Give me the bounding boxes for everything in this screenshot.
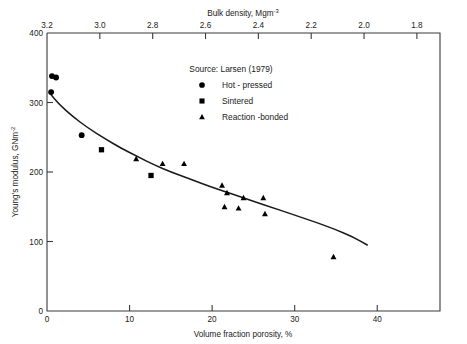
top-tick-label: 2.8 [147,21,159,30]
data-point-triangle [331,254,337,259]
top-tick-label: 1.8 [411,21,423,30]
y-axis-exponent: -2 [10,127,16,132]
y-axis-title: Young's modulus, GNm-2 [10,127,20,218]
top-axis-title: Bulk density, Mgm-3 [207,8,278,18]
y-tick-label: 400 [29,29,43,38]
y-axis-title-text: Young's modulus, GNm [11,132,20,218]
y-tick-label: 200 [29,168,43,177]
data-point-triangle [260,195,266,200]
chart-figure: Bulk density, Mgm-3 3.23.02.82.62.42.22.… [0,0,467,344]
legend-entries: Hot - pressedSinteredReaction -bonded [199,80,288,122]
y-tick-label: 300 [29,99,43,108]
x-axis-title: Volume fraction porosity, % [194,330,293,339]
legend-source: Source: Larsen (1979) [189,64,273,74]
top-tick-label: 2.4 [253,21,265,30]
data-point-triangle [262,211,268,216]
legend-label: Reaction -bonded [222,112,288,122]
data-point-circle [79,132,85,138]
data-point-square [99,147,104,152]
legend: Source: Larsen (1979) Hot - pressedSinte… [189,64,288,122]
top-axis-title-text: Bulk density, Mgm [207,9,273,18]
top-tick-label: 2.6 [200,21,212,30]
data-point-triangle [222,204,228,209]
data-point-triangle [219,182,225,187]
x-axis-ticks: 010203040 [45,305,383,324]
legend-label: Hot - pressed [222,80,273,90]
data-point-triangle [236,205,242,210]
legend-marker-square [199,98,204,103]
data-point-triangle [160,161,166,166]
legend-label: Sintered [222,96,254,106]
y-tick-label: 0 [38,307,43,316]
top-tick-label: 3.2 [41,21,53,30]
scatter-plot-svg: Bulk density, Mgm-3 3.23.02.82.62.42.22.… [0,0,467,344]
y-axis-ticks: 0100200300400 [29,29,53,316]
x-tick-label: 20 [208,315,218,324]
legend-marker-triangle [199,114,205,119]
x-tick-label: 10 [125,315,135,324]
data-point-square [148,173,153,178]
data-point-circle [48,89,54,95]
top-tick-label: 2.2 [306,21,318,30]
y-tick-label: 100 [29,238,43,247]
top-axis-exponent: -3 [274,8,279,14]
x-tick-label: 0 [45,315,50,324]
data-markers [48,73,336,259]
top-tick-label: 2.0 [358,21,370,30]
top-axis-ticks: 3.23.02.82.62.42.22.01.8 [41,21,423,39]
legend-marker-circle [199,82,205,88]
top-tick-label: 3.0 [94,21,106,30]
data-point-triangle [181,161,187,166]
data-point-circle [53,75,59,81]
plot-frame [47,33,440,311]
x-tick-label: 30 [290,315,300,324]
fit-curve [50,93,368,245]
x-tick-label: 40 [373,315,383,324]
